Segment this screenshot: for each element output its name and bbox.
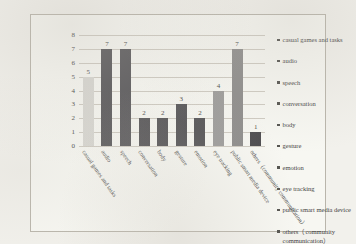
legend-item-label: others（community communication）: [283, 227, 356, 244]
y-axis-tick-label: 0: [72, 143, 76, 150]
bar: 7: [232, 49, 243, 146]
y-axis-tick-label: 7: [72, 45, 76, 52]
legend-marker-icon: [277, 81, 280, 84]
legend-marker-icon: [277, 39, 280, 42]
bar-value-label: 4: [217, 83, 221, 90]
y-axis-tick-label: 8: [72, 32, 76, 39]
bar: 7: [120, 49, 131, 146]
legend-marker-icon: [277, 102, 280, 105]
legend-item-label: audio: [283, 56, 297, 65]
legend-item: speech: [277, 78, 356, 99]
bar-value-label: 2: [161, 110, 165, 117]
legend-item: emotion: [277, 163, 356, 184]
y-axis-tick-label: 6: [72, 59, 76, 66]
legend-item-label: casual games and tasks: [283, 35, 343, 44]
legend-marker-icon: [277, 230, 280, 233]
y-axis-tick-label: 1: [72, 129, 76, 136]
legend-item-label: body: [283, 120, 296, 129]
bar: 1: [250, 132, 261, 146]
x-axis-label: emotion: [193, 149, 209, 169]
gridline-0: [79, 146, 265, 147]
bar: 3: [176, 104, 187, 146]
x-axis-label: speech: [119, 149, 133, 166]
legend-item: eye tracking: [277, 184, 356, 205]
legend-marker-icon: [277, 145, 280, 148]
legend-item: conversation: [277, 99, 356, 120]
bar-value-label: 5: [87, 69, 91, 76]
legend-item-label: speech: [283, 78, 301, 87]
legend-item: public smart media device: [277, 205, 356, 226]
y-axis-tick-label: 5: [72, 73, 76, 80]
bar-value-label: 7: [105, 41, 109, 48]
legend-item-label: eye tracking: [283, 184, 315, 193]
legend-item: audio: [277, 56, 356, 77]
legend-marker-icon: [277, 60, 280, 63]
bar: 4: [213, 91, 224, 147]
bar-value-label: 3: [180, 96, 184, 103]
chart-legend: casual games and tasksaudiospeechconvers…: [277, 35, 356, 244]
legend-marker-icon: [277, 124, 280, 127]
bar: 2: [139, 118, 150, 146]
legend-item: body: [277, 120, 356, 141]
bar-value-label: 7: [124, 41, 128, 48]
bar: 7: [101, 49, 112, 146]
bar-value-label: 7: [235, 41, 239, 48]
legend-marker-icon: [277, 166, 280, 169]
plot-area: 012345678 5772232471: [79, 35, 265, 146]
x-axis-label: gesture: [174, 149, 189, 167]
x-axis-label: body: [156, 149, 168, 162]
legend-item-label: emotion: [283, 163, 304, 172]
legend-marker-icon: [277, 209, 280, 212]
legend-marker-icon: [277, 188, 280, 191]
legend-item: others（community communication）: [277, 227, 356, 244]
y-axis-tick-label: 3: [72, 101, 76, 108]
legend-item-label: conversation: [283, 99, 316, 108]
x-axis-label: casual games and tasks: [81, 149, 118, 198]
bar-value-label: 2: [142, 110, 146, 117]
y-axis-tick-label: 4: [72, 87, 76, 94]
bar-value-label: 1: [254, 124, 258, 131]
legend-item-label: gesture: [283, 141, 302, 150]
legend-item-label: public smart media device: [283, 205, 351, 214]
bar: 2: [157, 118, 168, 146]
bar: 2: [194, 118, 205, 146]
y-axis-tick-label: 2: [72, 115, 76, 122]
chart-frame: 012345678 5772232471 casual games and ta…: [30, 14, 326, 232]
bar: 5: [83, 77, 94, 146]
bar-value-label: 2: [198, 110, 202, 117]
x-axis-label: audio: [100, 149, 113, 163]
legend-item: casual games and tasks: [277, 35, 356, 56]
gridline-8: [79, 35, 265, 36]
legend-item: gesture: [277, 141, 356, 162]
